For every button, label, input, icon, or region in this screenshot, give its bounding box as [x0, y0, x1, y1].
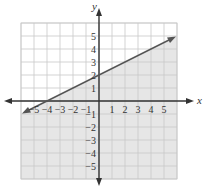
y-axis-label: y — [91, 0, 97, 12]
y-tick-label: 2 — [91, 70, 96, 81]
x-tick-label: −5 — [29, 104, 40, 115]
y-tick-label: −2 — [85, 122, 96, 133]
y-axis-down-arrow-icon — [96, 178, 102, 186]
x-tick-label: 3 — [136, 104, 141, 115]
x-tick-label: 2 — [123, 104, 128, 115]
x-tick-label: −2 — [68, 104, 79, 115]
x-tick-label: −3 — [55, 104, 66, 115]
y-tick-label: −5 — [85, 161, 96, 172]
y-tick-label: 1 — [91, 83, 96, 94]
x-axis-left-arrow-icon — [4, 98, 12, 104]
x-tick-label: −4 — [42, 104, 53, 115]
x-tick-label: 1 — [110, 104, 115, 115]
y-tick-label: 5 — [91, 31, 96, 42]
x-tick-label: 4 — [149, 104, 154, 115]
y-tick-label: 3 — [91, 57, 96, 68]
x-axis-label: x — [196, 94, 202, 106]
y-tick-label: −4 — [85, 148, 96, 159]
y-tick-label: −3 — [85, 135, 96, 146]
y-tick-label: 4 — [91, 44, 96, 55]
x-tick-label: 5 — [162, 104, 167, 115]
inequality-graph: y x −5−4−3−2−112345 54321−1−2−3−4−5 — [0, 0, 209, 186]
y-tick-label: −1 — [85, 109, 96, 120]
x-axis-right-arrow-icon — [186, 98, 194, 104]
